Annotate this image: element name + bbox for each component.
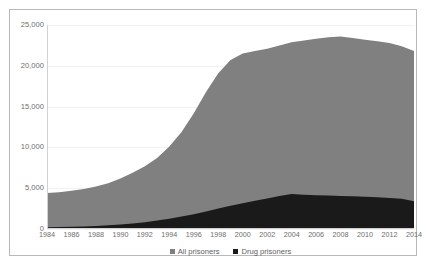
legend-label: Drug prisoners — [241, 247, 291, 256]
x-axis-tick-label: 2010 — [357, 230, 373, 240]
x-axis-tick-label: 2000 — [235, 230, 251, 240]
legend-swatch-icon — [233, 249, 238, 254]
y-axis-tick-label: 15,000 — [21, 103, 44, 111]
x-axis-line — [47, 228, 414, 229]
chart-screenshot: 05,00010,00015,00020,00025,000 198419861… — [0, 0, 430, 271]
x-axis-tick-label: 2002 — [259, 230, 275, 240]
plot-area — [47, 25, 414, 229]
y-axis-tick-labels: 05,00010,00015,00020,00025,000 — [10, 25, 44, 229]
x-axis-tick-label: 1990 — [112, 230, 128, 240]
chart-legend: All prisonersDrug prisoners — [47, 244, 414, 258]
x-axis-tick-labels: 1984198619881990199219941996199820002002… — [47, 230, 414, 242]
legend-swatch-icon — [170, 249, 175, 254]
y-axis-tick-label: 10,000 — [21, 143, 44, 151]
y-axis-tick-label: 25,000 — [21, 21, 44, 29]
legend-item[interactable]: Drug prisoners — [233, 247, 291, 256]
x-axis-tick-label: 1984 — [39, 230, 55, 240]
y-axis-line — [47, 25, 48, 229]
x-axis-tick-label: 2008 — [333, 230, 349, 240]
x-axis-tick-label: 2012 — [382, 230, 398, 240]
x-axis-tick-label: 1992 — [137, 230, 153, 240]
x-axis-tick-label: 1994 — [161, 230, 177, 240]
chart-frame: 05,00010,00015,00020,00025,000 198419861… — [9, 9, 417, 256]
x-axis-tick-label: 1996 — [186, 230, 202, 240]
x-axis-tick-label: 2014 — [406, 230, 422, 240]
x-axis-tick-label: 1988 — [88, 230, 104, 240]
y-axis-tick-label: 20,000 — [21, 62, 44, 70]
x-axis-tick-label: 2006 — [308, 230, 324, 240]
x-axis-tick-label: 1998 — [210, 230, 226, 240]
x-axis-tick-label: 2004 — [284, 230, 300, 240]
area-series-group — [47, 25, 414, 229]
x-axis-tick-label: 1986 — [63, 230, 79, 240]
y-axis-tick-label: 5,000 — [25, 184, 44, 192]
legend-item[interactable]: All prisoners — [170, 247, 220, 256]
legend-label: All prisoners — [178, 247, 220, 256]
